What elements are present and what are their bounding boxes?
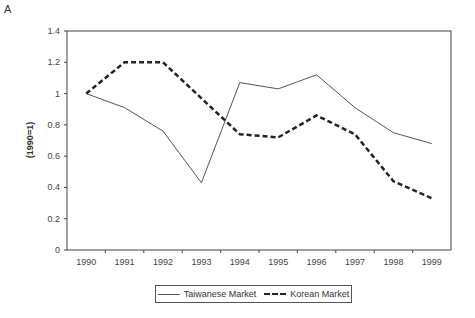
svg-text:1999: 1999 bbox=[422, 257, 442, 267]
svg-text:1994: 1994 bbox=[230, 257, 250, 267]
svg-text:0.8: 0.8 bbox=[47, 120, 60, 130]
solid-line-swatch-icon bbox=[158, 294, 180, 295]
svg-text:1: 1 bbox=[55, 89, 60, 99]
series-korean-market bbox=[86, 62, 432, 198]
svg-text:1998: 1998 bbox=[383, 257, 403, 267]
legend-item-taiwanese: Taiwanese Market bbox=[158, 289, 257, 299]
svg-text:1995: 1995 bbox=[268, 257, 288, 267]
panel-label: A bbox=[4, 3, 12, 15]
svg-text:1.2: 1.2 bbox=[47, 57, 60, 67]
svg-text:1996: 1996 bbox=[307, 257, 327, 267]
y-axis: 00.20.40.60.811.21.4 bbox=[47, 26, 67, 255]
line-chart: A 00.20.40.60.811.21.4 19901991199219931… bbox=[0, 0, 475, 318]
svg-text:1992: 1992 bbox=[153, 257, 173, 267]
svg-text:1.4: 1.4 bbox=[47, 26, 60, 36]
svg-text:0.6: 0.6 bbox=[47, 151, 60, 161]
y-axis-label: (1990=1) bbox=[25, 122, 35, 158]
series-taiwanese-market bbox=[86, 75, 432, 183]
svg-text:1997: 1997 bbox=[345, 257, 365, 267]
svg-text:0: 0 bbox=[55, 245, 60, 255]
svg-text:0.4: 0.4 bbox=[47, 182, 60, 192]
legend-label: Taiwanese Market bbox=[184, 289, 257, 299]
svg-text:1991: 1991 bbox=[115, 257, 135, 267]
legend: Taiwanese Market Korean Market bbox=[155, 285, 352, 303]
x-axis: 1990199119921993199419951996199719981999 bbox=[76, 250, 442, 267]
svg-text:1990: 1990 bbox=[76, 257, 96, 267]
svg-text:1993: 1993 bbox=[191, 257, 211, 267]
legend-item-korean: Korean Market bbox=[264, 289, 349, 299]
svg-text:0.2: 0.2 bbox=[47, 214, 60, 224]
legend-label: Korean Market bbox=[290, 289, 349, 299]
dashed-line-swatch-icon bbox=[264, 293, 286, 295]
